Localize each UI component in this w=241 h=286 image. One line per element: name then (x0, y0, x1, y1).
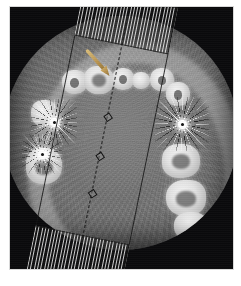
tooth-crown (174, 212, 208, 240)
tooth-crown (166, 180, 206, 216)
screenshot-root (0, 0, 241, 286)
tooth-crown (31, 100, 57, 126)
image-frame (10, 7, 233, 269)
tooth-crown (166, 82, 190, 106)
tooth-crown (162, 144, 200, 178)
